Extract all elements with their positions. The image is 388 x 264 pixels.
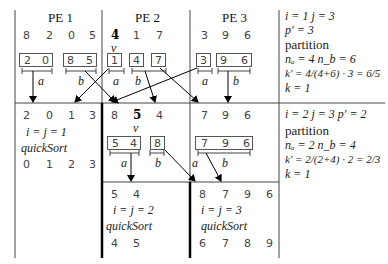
l2-value: 3 bbox=[89, 109, 96, 122]
l3-sorted-value: 5 bbox=[133, 237, 140, 250]
pe3-header: PE 3 bbox=[222, 10, 247, 26]
pe1-a-box: 2 0 bbox=[19, 53, 53, 67]
l2-value: 1 bbox=[68, 109, 75, 122]
label-b: b bbox=[155, 156, 161, 171]
l2-pivot-value: 5 bbox=[133, 108, 141, 122]
label-a: a bbox=[192, 156, 198, 171]
l3-pe3-action: quickSort bbox=[201, 219, 247, 234]
step2-n: nₐ = 2 n_b = 4 bbox=[285, 139, 356, 152]
l2-sorted-value: 1 bbox=[46, 158, 53, 171]
step2-kprime: k′ = 2/(2+4) · 2 = 2/3 bbox=[285, 153, 380, 166]
l2-pivot-label: v bbox=[133, 121, 138, 136]
l3-value: 9 bbox=[244, 188, 251, 201]
pe2-b2-box: 7 bbox=[151, 53, 166, 67]
step2-k: k = 1 bbox=[285, 168, 310, 181]
l2-value: 0 bbox=[46, 109, 53, 122]
l2-sorted-value: 2 bbox=[68, 158, 75, 171]
pe3-value: 6 bbox=[244, 29, 251, 42]
l3-pe3-note: i = j = 3 bbox=[201, 203, 242, 218]
step2-op: partition bbox=[285, 124, 329, 137]
l3-sorted-value: 9 bbox=[266, 237, 273, 250]
pe1-b-box: 8 5 bbox=[63, 53, 97, 67]
l3-sorted-value: 6 bbox=[199, 237, 206, 250]
l2-value: 6 bbox=[244, 109, 251, 122]
l3-pe2-note: i = j = 2 bbox=[113, 203, 154, 218]
l3-pe2-action: quickSort bbox=[106, 219, 152, 234]
pe2-b1-box: 4 bbox=[129, 53, 144, 67]
pivot-value: 4 bbox=[111, 28, 119, 42]
pe2-value: 1 bbox=[133, 29, 140, 42]
l2-sorted-value: 0 bbox=[23, 158, 30, 171]
pe2-a-box: 1 bbox=[107, 53, 122, 67]
label-a: a bbox=[121, 156, 127, 171]
pe3-value: 9 bbox=[222, 29, 229, 42]
l3-value: 5 bbox=[111, 188, 118, 201]
l2-left-action: quickSort bbox=[21, 141, 67, 156]
l3-sorted-value: 4 bbox=[111, 237, 118, 250]
label-b: b bbox=[78, 74, 84, 89]
label-b: b bbox=[222, 156, 228, 171]
step2-ij: i = 2 j = 3 p′ = 2 bbox=[285, 108, 367, 121]
l2-value: 4 bbox=[156, 109, 163, 122]
pe1-header: PE 1 bbox=[48, 10, 73, 26]
pe1-value: 2 bbox=[46, 29, 53, 42]
pe2-value: 7 bbox=[156, 29, 163, 42]
pe3-a-box: 3 bbox=[196, 53, 211, 67]
l2-pe2-a-box: 5 4 bbox=[107, 136, 141, 150]
l3-sorted-value: 8 bbox=[244, 237, 251, 250]
label-a: a bbox=[38, 74, 44, 89]
step1-k: k = 1 bbox=[285, 82, 310, 95]
l2-value: 8 bbox=[111, 109, 118, 122]
l2-sorted-value: 3 bbox=[89, 158, 96, 171]
l2-value: 7 bbox=[201, 109, 208, 122]
pe1-value: 0 bbox=[68, 29, 75, 42]
step1-ij: i = 1 j = 3 bbox=[285, 10, 335, 23]
l2-pe2-b-box: 8 bbox=[150, 136, 165, 150]
pe3-b-box: 9 6 bbox=[216, 53, 252, 67]
l2-pe3-box: 7 9 6 bbox=[195, 136, 253, 150]
l3-sorted-value: 7 bbox=[222, 237, 229, 250]
l3-value: 4 bbox=[133, 188, 140, 201]
l2-value: 2 bbox=[23, 109, 30, 122]
pe1-value: 8 bbox=[23, 29, 30, 42]
step1-kprime: k′ = 4/(4+6) · 3 = 6/5 bbox=[285, 67, 380, 80]
l2-value: 9 bbox=[222, 109, 229, 122]
label-a: a bbox=[113, 74, 119, 89]
pe1-value: 5 bbox=[89, 29, 96, 42]
l3-value: 7 bbox=[222, 188, 229, 201]
pe3-value: 3 bbox=[201, 29, 208, 42]
label-b: b bbox=[233, 74, 239, 89]
step1-op: partition bbox=[285, 38, 329, 51]
step1-n: nₐ = 4 n_b = 6 bbox=[285, 53, 356, 66]
l3-value: 6 bbox=[266, 188, 273, 201]
step1-p: p′ = 3 bbox=[285, 24, 314, 37]
label-a: a bbox=[202, 74, 208, 89]
l2-left-note: i = j = 1 bbox=[26, 125, 67, 140]
label-b: b bbox=[135, 74, 141, 89]
l3-value: 8 bbox=[199, 188, 206, 201]
pe2-header: PE 2 bbox=[135, 10, 160, 26]
